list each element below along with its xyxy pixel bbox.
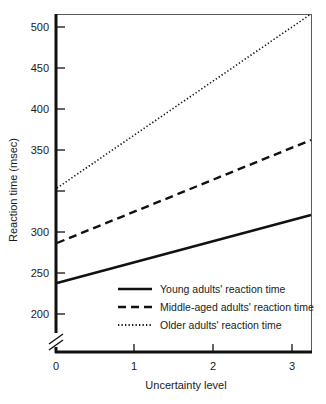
y-tick-label-350: 350 bbox=[31, 144, 49, 156]
x-tick-label-1: 1 bbox=[131, 360, 137, 372]
y-tick-label-500: 500 bbox=[31, 21, 49, 33]
y-tick-label-450: 450 bbox=[31, 62, 49, 74]
y-tick-label-300: 300 bbox=[31, 226, 49, 238]
series-line-middle-aged-adults bbox=[57, 140, 311, 243]
legend-item-older-adults: Older adults' reaction time bbox=[118, 319, 282, 331]
x-tick-label-0: 0 bbox=[53, 360, 59, 372]
y-tick-label-200: 200 bbox=[31, 308, 49, 320]
y-tick-marks bbox=[57, 27, 65, 314]
x-tick-label-2: 2 bbox=[210, 360, 216, 372]
y-tick-label-400: 400 bbox=[31, 103, 49, 115]
x-tick-label-3: 3 bbox=[289, 360, 295, 372]
y-axis bbox=[49, 14, 63, 353]
series-line-young-adults bbox=[57, 215, 311, 283]
series-line-older-adults bbox=[57, 14, 311, 188]
reaction-time-line-chart: 500 450 400 350 300 250 200 0 1 2 3 Unce… bbox=[0, 0, 326, 404]
legend-item-young-adults: Young adults' reaction time bbox=[118, 283, 286, 295]
y-tick-label-250: 250 bbox=[31, 267, 49, 279]
legend-item-middle-aged-adults: Middle-aged adults' reaction time bbox=[118, 301, 314, 313]
chart-figure: 500 450 400 350 300 250 200 0 1 2 3 Unce… bbox=[0, 0, 326, 404]
legend-label-older-adults: Older adults' reaction time bbox=[160, 319, 282, 331]
x-tick-marks bbox=[134, 344, 292, 351]
chart-legend: Young adults' reaction time Middle-aged … bbox=[118, 283, 314, 331]
y-axis-title: Reaction time (msec) bbox=[7, 138, 19, 242]
x-axis-title: Uncertainty level bbox=[145, 379, 226, 391]
data-series bbox=[57, 14, 311, 283]
legend-label-middle-aged-adults: Middle-aged adults' reaction time bbox=[160, 301, 314, 313]
legend-label-young-adults: Young adults' reaction time bbox=[160, 283, 286, 295]
